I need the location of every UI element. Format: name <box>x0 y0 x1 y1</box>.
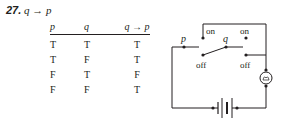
on-label-p: on <box>206 26 216 36</box>
terminal-dot <box>211 106 214 109</box>
terminal-dot <box>201 36 204 39</box>
terminal-dot <box>264 84 267 87</box>
switch-q-label: q <box>223 33 228 44</box>
switch-p-label: p <box>180 33 186 44</box>
terminal-dot <box>264 68 267 71</box>
terminal-dot <box>235 106 238 109</box>
off-label-q: off <box>240 60 250 70</box>
circuit-diagram: p q on on off off <box>0 0 281 121</box>
off-label-p: off <box>196 60 206 70</box>
wire-right-bottom <box>237 86 266 108</box>
battery-icon <box>213 98 237 118</box>
terminal-dot <box>244 53 247 56</box>
terminal-dot <box>224 45 227 48</box>
terminal-dot <box>244 36 247 39</box>
switch-q-connector <box>203 47 226 55</box>
wire-left <box>172 47 213 108</box>
on-label-q: on <box>240 26 250 36</box>
terminal-dot <box>201 53 204 56</box>
terminal-dot <box>182 45 185 48</box>
